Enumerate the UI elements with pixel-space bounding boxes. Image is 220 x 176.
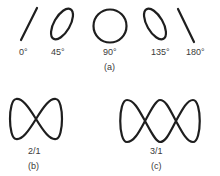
ratio-2-1-curve [10, 99, 62, 139]
label-135: 135° [151, 47, 170, 57]
panel-c: 3/1 (c) [120, 100, 200, 171]
phase-135-ellipse [140, 5, 171, 42]
label-45: 45° [51, 47, 65, 57]
lissajous-diagram: 0° 45° 90° 135° 180° (a) 2/1 (b) 3/1 (c) [0, 0, 220, 176]
label-90: 90° [103, 47, 117, 57]
label-0: 0° [19, 47, 28, 57]
ratio-label-2-1: 2/1 [28, 146, 41, 156]
phase-0-line [21, 8, 37, 40]
panel-b: 2/1 (b) [10, 99, 62, 171]
label-180: 180° [186, 47, 205, 57]
caption-b: (b) [28, 161, 39, 171]
phase-45-ellipse [47, 5, 78, 42]
ratio-3-1-curve [120, 100, 200, 142]
caption-a: (a) [104, 62, 115, 72]
ratio-label-3-1: 3/1 [150, 146, 163, 156]
panel-a: 0° 45° 90° 135° 180° (a) [19, 5, 205, 72]
caption-c: (c) [151, 161, 162, 171]
phase-90-circle [94, 10, 127, 43]
phase-180-line [178, 9, 194, 42]
